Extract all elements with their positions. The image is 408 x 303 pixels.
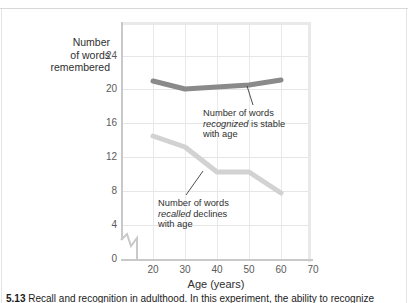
- y-tick-label-12: 12: [91, 152, 117, 162]
- annotation-recognized-line-2: recognized is stable: [203, 119, 313, 130]
- x-tick-label-70: 70: [300, 265, 326, 275]
- x-axis-title: Age (years): [121, 278, 311, 290]
- annotation-recalled-line-3: with age: [158, 219, 268, 230]
- y-tick-label-0: 0: [91, 254, 117, 264]
- annotation-recalled-line-1: Number of words: [158, 198, 268, 209]
- y-axis-title: Number of words remembered: [22, 36, 110, 74]
- line-chart: 24 20 16 12 8 4 0 20 30 40 50 60 70 Numb…: [0, 0, 408, 303]
- annotation-recalled-line-2: recalled declines: [158, 209, 268, 220]
- annotation-recalled: Number of words recalled declines with a…: [158, 198, 268, 230]
- y-tick-label-4: 4: [91, 220, 117, 230]
- figure-caption-number: 5.13: [6, 293, 25, 303]
- annotation-recognized-line-2-rest: is stable: [248, 119, 285, 129]
- y-axis-line: [121, 22, 123, 240]
- y-axis-title-line-3: remembered: [22, 61, 110, 74]
- y-tick-label-8: 8: [91, 186, 117, 196]
- annotation-recognized-emphasis: recognized: [203, 119, 248, 129]
- x-tick-label-40: 40: [204, 265, 230, 275]
- y-axis-title-line-1: Number: [22, 36, 110, 49]
- annotation-recalled-emphasis: recalled: [158, 209, 191, 219]
- figure-caption-text: Recall and recognition in adulthood. In …: [28, 293, 374, 303]
- annotation-recalled-line-2-rest: declines: [191, 209, 228, 219]
- y-axis-title-line-2: of words: [22, 49, 110, 62]
- y-tick-label-16: 16: [91, 118, 117, 128]
- annotation-recognized: Number of words recognized is stable wit…: [203, 108, 313, 140]
- x-axis-line: [121, 259, 313, 261]
- figure-caption: 5.13 Recall and recognition in adulthood…: [6, 293, 402, 303]
- y-tick-label-20: 20: [91, 84, 117, 94]
- x-tick-label-50: 50: [236, 265, 262, 275]
- figure-root: 24 20 16 12 8 4 0 20 30 40 50 60 70 Numb…: [0, 0, 408, 303]
- annotation-recognized-line-3: with age: [203, 129, 313, 140]
- x-tick-label-30: 30: [172, 265, 198, 275]
- x-tick-label-60: 60: [268, 265, 294, 275]
- x-tick-label-20: 20: [140, 265, 166, 275]
- annotation-recognized-line-1: Number of words: [203, 108, 313, 119]
